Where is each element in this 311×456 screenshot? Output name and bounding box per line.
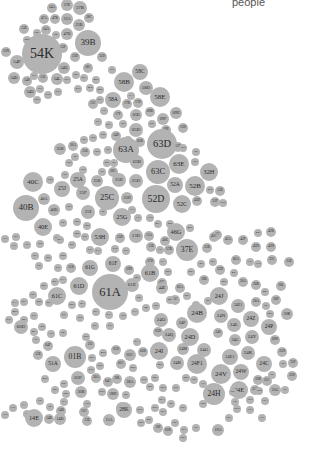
- area-bubble: 10H: [65, 203, 73, 211]
- area-bubble: 54A: [47, 3, 57, 13]
- area-bubble: 20A: [251, 297, 261, 307]
- area-bubble: 40E: [34, 218, 52, 236]
- area-bubble: 55D: [137, 419, 145, 427]
- area-bubble: 51B: [66, 263, 76, 273]
- area-bubble: 25F: [76, 186, 90, 200]
- area-bubble: 32F: [192, 148, 200, 156]
- area-bubble: 48D: [92, 76, 100, 84]
- area-bubble: 44I: [142, 304, 150, 312]
- area-bubble: 28A: [124, 376, 136, 388]
- area-bubble: 20O: [159, 384, 167, 392]
- area-bubble: 07C: [209, 258, 217, 266]
- area-bubble: 30C: [197, 260, 205, 268]
- area-bubble: 58B: [35, 298, 43, 306]
- area-bubble: 24U: [151, 374, 159, 382]
- area-bubble: 12A: [94, 118, 102, 126]
- area-bubble: 35F: [268, 371, 276, 379]
- area-bubble: 28J: [122, 391, 130, 399]
- area-bubble: 35I: [281, 386, 289, 394]
- area-bubble: 52A: [167, 177, 183, 193]
- area-bubble: 12G: [191, 158, 199, 166]
- area-bubble: 35B: [202, 243, 212, 253]
- area-bubble: 12C: [119, 120, 127, 128]
- area-bubble: 24Y: [245, 330, 259, 344]
- area-bubble: 03D: [138, 347, 148, 357]
- area-bubble: 13E: [82, 416, 92, 426]
- area-bubble: 51E: [30, 312, 38, 320]
- area-bubble: 08A: [56, 236, 64, 244]
- area-bubble: 09F: [157, 113, 169, 125]
- area-bubble: 13D: [129, 229, 143, 243]
- area-bubble: 29D: [98, 388, 106, 396]
- area-bubble: 39B: [75, 30, 101, 56]
- area-bubble: 35E: [284, 257, 294, 267]
- area-bubble: 64D: [96, 362, 104, 370]
- area-bubble: 35J: [71, 153, 79, 161]
- area-bubble: 10F: [59, 219, 67, 227]
- area-bubble: 12D: [178, 123, 188, 133]
- area-bubble: 02C: [187, 268, 195, 276]
- area-bubble: 02B: [129, 364, 137, 372]
- area-bubble: 09A: [105, 121, 113, 129]
- area-bubble: 58A: [105, 92, 121, 108]
- area-bubble: 61F: [105, 256, 121, 272]
- area-bubble: 53D: [70, 52, 80, 62]
- area-bubble: 37E: [176, 239, 198, 261]
- area-bubble: 62A: [180, 426, 188, 434]
- area-bubble: 35E: [279, 360, 287, 368]
- area-bubble: 42H: [266, 242, 276, 252]
- area-bubble: 09C: [183, 292, 191, 300]
- area-bubble: 58B: [114, 72, 134, 92]
- area-bubble: 23A: [61, 13, 73, 25]
- legend-label: people: [232, 0, 265, 8]
- area-bubble: 53C: [122, 247, 130, 255]
- area-bubble: 11A: [20, 401, 28, 409]
- area-bubble: 57A: [159, 258, 167, 266]
- area-bubble: 61D: [70, 277, 88, 295]
- area-bubble: 35M: [255, 387, 263, 395]
- area-bubble: 47D: [61, 28, 73, 40]
- area-bubble: 60A: [20, 298, 28, 306]
- area-bubble: 20L: [276, 281, 286, 291]
- area-bubble: 53N: [1, 47, 11, 57]
- area-bubble: 29E: [60, 311, 68, 319]
- area-bubble: 30C: [262, 302, 270, 310]
- area-bubble: 24E1: [231, 299, 245, 313]
- area-bubble: 51A: [11, 299, 19, 307]
- area-bubble: 13A: [144, 231, 154, 241]
- area-bubble: 44A: [30, 328, 38, 336]
- area-bubble: 01C: [116, 359, 126, 369]
- area-bubble: 52E: [215, 186, 225, 196]
- area-bubble: 06C: [88, 354, 96, 362]
- area-bubble: 25D: [151, 404, 159, 412]
- area-bubble: 54C: [51, 386, 59, 394]
- area-bubble: 36A: [68, 141, 78, 151]
- area-bubble: 54D: [62, 390, 70, 398]
- area-bubble: 57E: [61, 0, 73, 11]
- area-bubble: 42D: [251, 242, 261, 252]
- area-bubble: 24E1: [222, 349, 238, 365]
- area-bubble: 14B: [44, 414, 54, 424]
- area-bubble: 30A: [91, 373, 101, 383]
- area-bubble: 53H: [91, 228, 109, 246]
- area-bubble: 28I: [153, 423, 163, 433]
- area-bubble: 31D: [47, 330, 55, 338]
- area-bubble: 62C: [171, 419, 179, 427]
- area-bubble: 20A: [238, 277, 248, 287]
- area-bubble: 58C: [83, 63, 93, 73]
- area-bubble: 28K: [116, 402, 132, 418]
- area-bubble: 35C: [267, 255, 277, 265]
- area-bubble: 10D: [73, 218, 81, 226]
- area-bubble: 54L: [51, 73, 63, 85]
- area-bubble: 53E: [33, 350, 43, 360]
- area-bubble: 44F: [166, 296, 174, 304]
- area-bubble: 24K: [241, 346, 255, 360]
- area-bubble: 11D: [9, 404, 17, 412]
- area-bubble: 36B: [89, 134, 97, 142]
- area-bubble: 43D: [192, 196, 202, 206]
- area-bubble: 15E: [36, 397, 44, 405]
- area-bubble: 35D: [97, 52, 107, 62]
- area-bubble: 13B: [1, 411, 9, 419]
- area-bubble: 24J: [210, 287, 228, 305]
- area-bubble: 38H: [152, 302, 160, 310]
